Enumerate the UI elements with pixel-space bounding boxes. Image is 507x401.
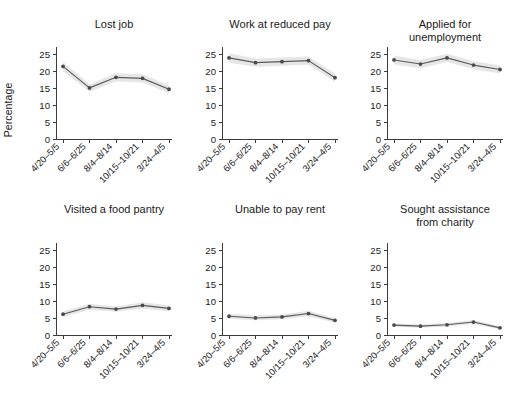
y-tick-label: 0 xyxy=(376,330,381,341)
x-tick-label: 3/24–4/5 xyxy=(466,337,499,370)
data-point xyxy=(498,68,502,72)
y-tick-label: 5 xyxy=(376,313,381,324)
panel-plot-area: 05101520254/20–5/56/6–6/258/4–8/1410/15–… xyxy=(387,243,503,337)
panel-title: Sought assistance from charity xyxy=(373,203,507,229)
data-point xyxy=(498,326,502,330)
data-point xyxy=(392,323,396,327)
data-point xyxy=(419,324,423,328)
data-point xyxy=(472,320,476,324)
y-tick-label: 25 xyxy=(370,245,381,256)
y-tick-label: 20 xyxy=(370,262,381,273)
data-point xyxy=(445,323,449,327)
y-tick-label: 10 xyxy=(370,296,381,307)
y-tick-label: 15 xyxy=(370,279,381,290)
